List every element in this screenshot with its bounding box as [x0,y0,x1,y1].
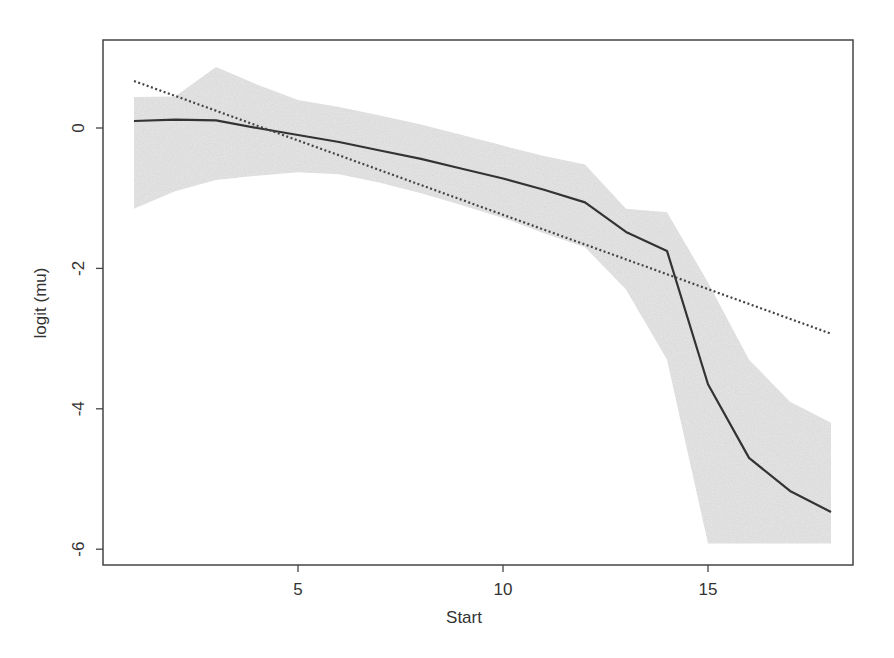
y-tick-label: 0 [69,123,88,132]
chart: 51015 0-2-4-6 Start logit (mu) [0,0,894,658]
plot-area [134,67,831,544]
y-axis-title: logit (mu) [31,268,50,339]
x-tick-label: 5 [293,580,302,599]
y-tick-label: -6 [69,542,88,557]
x-axis-title: Start [446,608,482,627]
confidence-band [134,67,831,544]
y-tick-label: -4 [69,401,88,416]
y-tick-label: -2 [69,261,88,276]
x-tick-label: 10 [494,580,513,599]
x-axis: 51015 [293,565,717,599]
y-axis: 0-2-4-6 [69,123,103,556]
x-tick-label: 15 [699,580,718,599]
